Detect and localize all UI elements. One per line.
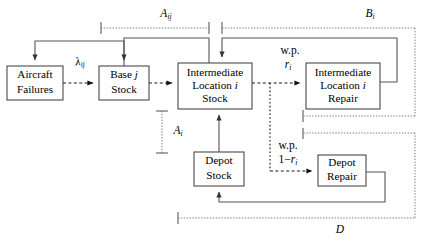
wp-ri-line2: ri [285,58,292,72]
bracket-label-a-i: Ai [172,124,182,138]
bracket-a-i [156,111,168,153]
wp-1-ri-line1: w.p. [278,139,297,152]
node-depot-stock-line2: Stock [206,169,232,181]
edge-label-wp-one-minus-ri: w.p. 1−ri [278,139,297,167]
wp-1-ri-line2: 1−ri [279,153,298,167]
node-intermediate-location-repair-line2: Location i [320,79,366,91]
edge-intermediate-to-base [124,38,209,63]
node-intermediate-location-repair[interactable]: Intermediate Location i Repair [306,63,380,109]
node-intermediate-location-repair-line1: Intermediate [315,66,372,78]
svg-text:Ai: Ai [172,124,182,138]
bracket-a-ij [101,22,209,34]
node-depot-repair-line1: Depot [328,156,356,168]
bracket-b-i-sub: i [372,12,374,21]
node-base-stock-line1: Base j [110,68,138,80]
node-depot-repair-line2: Repair [327,170,357,182]
bracket-label-b-i: Bi [365,7,374,21]
bracket-a-ij-sub: ij [167,12,171,21]
wp-ri-line1: w.p. [280,44,299,57]
node-depot-stock[interactable]: Depot Stock [194,152,244,186]
node-intermediate-location-stock-line3: Stock [202,92,228,104]
flow-diagram-svg: Aircraft Failures Base j Stock Intermedi… [0,0,424,243]
node-depot-stock-line1: Depot [205,154,233,166]
svg-text:λij: λij [74,54,86,69]
node-intermediate-location-stock[interactable]: Intermediate Location i Stock [178,63,252,109]
node-depot-repair[interactable]: Depot Repair [318,155,366,186]
node-aircraft-failures[interactable]: Aircraft Failures [7,66,63,100]
node-base-stock[interactable]: Base j Stock [99,66,149,100]
node-intermediate-location-repair-line3: Repair [328,92,358,104]
node-base-stock-line2: Stock [111,83,137,95]
bracket-a-i-sub: i [180,129,182,138]
lambda-subscript: ij [80,59,85,68]
edge-label-lambda-ij: λij [74,54,86,69]
bracket-label-a-ij: Aij [159,7,171,21]
node-aircraft-failures-line1: Aircraft [17,68,53,80]
bracket-d-label: D [335,223,345,235]
edge-label-wp-ri: w.p. ri [280,44,299,72]
bracket-label-d: D [335,223,345,235]
node-aircraft-failures-line2: Failures [17,83,53,95]
svg-text:Bi: Bi [365,7,374,21]
node-intermediate-location-stock-line1: Intermediate [187,66,244,78]
node-intermediate-location-stock-line2: Location i [192,79,238,91]
bracket-b-i-base: B [365,7,372,19]
svg-text:Aij: Aij [159,7,171,21]
flow-diagram-canvas: Aircraft Failures Base j Stock Intermedi… [0,0,424,243]
